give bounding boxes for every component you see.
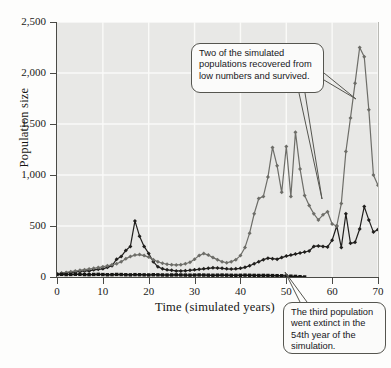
- y-axis-line: [56, 22, 57, 278]
- x-tick: [378, 278, 379, 284]
- y-tick: [50, 226, 57, 227]
- x-tick-label: 40: [225, 285, 255, 297]
- annotation-callout-extinct: The third population went extinct in the…: [283, 302, 386, 354]
- figure: 05001,0001,5002,0002,500 010203040506070…: [0, 0, 391, 368]
- x-tick-label: 20: [134, 285, 164, 297]
- y-tick-label: 0: [0, 271, 46, 282]
- x-tick: [195, 278, 196, 284]
- annotation-callout-recovered: Two of the simulated populations recover…: [191, 43, 324, 93]
- x-tick-label: 50: [271, 285, 301, 297]
- y-axis-title: Population size: [17, 58, 32, 198]
- y-tick: [50, 22, 57, 23]
- x-tick-label: 30: [180, 285, 210, 297]
- x-tick-label: 60: [317, 285, 347, 297]
- y-tick: [50, 73, 57, 74]
- y-tick-label: 2,500: [0, 16, 46, 27]
- x-tick: [286, 278, 287, 284]
- y-tick: [50, 277, 57, 278]
- series-1: [57, 205, 378, 276]
- x-tick: [103, 278, 104, 284]
- x-tick: [149, 278, 150, 284]
- x-tick-label: 70: [363, 285, 391, 297]
- y-tick: [50, 175, 57, 176]
- y-tick-label: 500: [0, 220, 46, 231]
- x-tick: [57, 278, 58, 284]
- x-axis-line: [57, 277, 379, 278]
- y-tick: [50, 124, 57, 125]
- x-tick: [332, 278, 333, 284]
- x-tick-label: 10: [88, 285, 118, 297]
- x-tick: [240, 278, 241, 284]
- x-tick-label: 0: [42, 285, 72, 297]
